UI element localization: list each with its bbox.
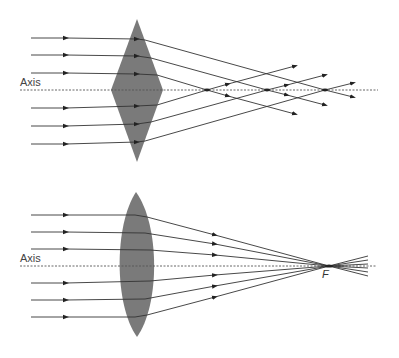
convex-lens — [120, 192, 155, 337]
top-diagram — [20, 19, 378, 162]
focal-point-label: F — [322, 268, 329, 280]
bottom-axis-label: Axis — [20, 252, 41, 264]
diamond-lens — [111, 19, 163, 162]
top-outgoing-rays — [145, 40, 353, 141]
bottom-diagram — [20, 192, 376, 337]
top-axis-label: Axis — [20, 76, 41, 88]
optics-diagram — [0, 0, 399, 358]
top-focal-points — [204, 89, 328, 92]
